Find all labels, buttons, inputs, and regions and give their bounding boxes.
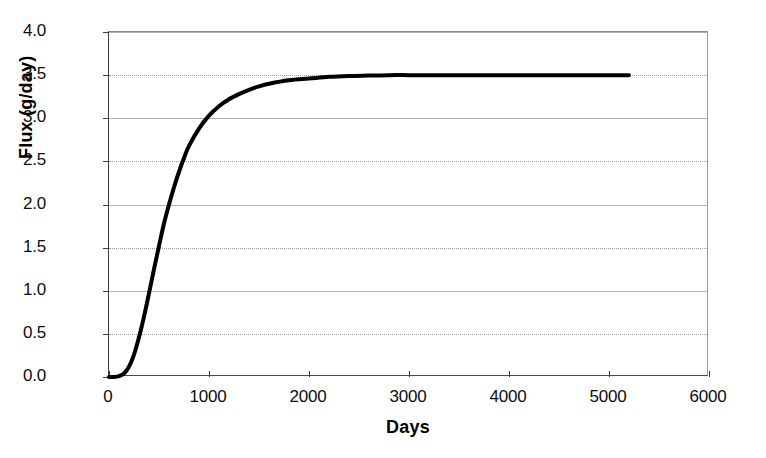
flux-curve	[109, 32, 709, 377]
x-tick-label: 6000	[668, 388, 748, 405]
y-tick-label: 0.0	[0, 367, 46, 384]
x-tick-label: 2000	[268, 388, 348, 405]
y-tick-label: 2.0	[0, 195, 46, 212]
plot-area	[108, 31, 708, 376]
x-axis-title: Days	[108, 417, 708, 438]
y-tick-label: 1.5	[0, 238, 46, 255]
x-tick-label: 1000	[168, 388, 248, 405]
x-tick-label: 3000	[368, 388, 448, 405]
x-tick-mark	[709, 371, 710, 377]
y-tick-label: 1.0	[0, 281, 46, 298]
flux-series-path	[109, 75, 629, 377]
x-tick-label: 0	[68, 388, 148, 405]
y-tick-label: 0.5	[0, 324, 46, 341]
flux-vs-days-chart: 0.00.51.01.52.02.53.03.54.0 010002000300…	[0, 0, 766, 458]
x-tick-label: 5000	[568, 388, 648, 405]
x-tick-label: 4000	[468, 388, 548, 405]
y-axis-title: Flux (g/day)	[16, 0, 44, 159]
